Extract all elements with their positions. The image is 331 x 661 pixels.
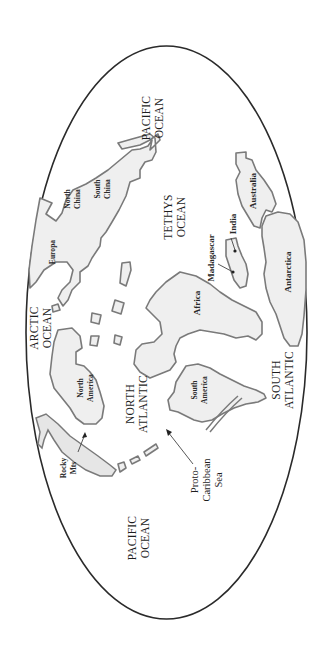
svg-text:PACIFIC: PACIFIC (126, 516, 138, 561)
svg-text:South: South (190, 380, 199, 400)
north-china-label: North China (63, 189, 82, 209)
svg-text:China: China (73, 189, 82, 209)
africa-label: Africa (192, 290, 202, 315)
svg-text:North: North (63, 189, 72, 209)
svg-text:OCEAN: OCEAN (41, 307, 53, 348)
india-marker (233, 249, 236, 252)
island (91, 313, 101, 324)
tethys-ocean-label: TETHYS OCEAN (162, 194, 187, 239)
svg-text:ATLANTIC: ATLANTIC (137, 375, 149, 433)
svg-text:Madagascar: Madagascar (206, 234, 216, 282)
svg-text:OCEAN: OCEAN (153, 97, 165, 138)
svg-text:Mts: Mts (69, 462, 78, 475)
svg-text:ATLANTIC: ATLANTIC (283, 351, 295, 409)
svg-text:India: India (228, 213, 238, 234)
svg-text:NORTH: NORTH (124, 384, 136, 424)
svg-text:Antarctica: Antarctica (283, 251, 293, 292)
antarctica-label: Antarctica (283, 251, 293, 292)
svg-text:North: North (76, 378, 85, 398)
pacific-ocean-top-label: PACIFIC OCEAN (140, 96, 165, 141)
svg-text:Caribbean: Caribbean (201, 458, 212, 502)
south-china-label: South China (93, 179, 112, 199)
island (112, 300, 124, 314)
svg-text:Europa: Europa (48, 240, 57, 265)
europa-label: Europa (48, 240, 57, 265)
india-label: India (228, 213, 238, 234)
arctic-ocean-label: ARCTIC OCEAN (28, 306, 53, 350)
madagascar-marker (231, 270, 234, 273)
island (114, 335, 122, 345)
island (90, 336, 99, 346)
svg-text:Australia: Australia (248, 173, 258, 210)
svg-text:OCEAN: OCEAN (139, 517, 151, 558)
svg-text:Rocky: Rocky (59, 457, 68, 478)
paleogeographic-map: PACIFIC OCEAN TETHYS OCEAN ARCTIC OCEAN … (0, 0, 331, 661)
svg-text:America: America (86, 374, 95, 402)
svg-text:China: China (103, 179, 112, 199)
madagascar-label: Madagascar (206, 234, 216, 282)
svg-text:Africa: Africa (192, 290, 202, 315)
australia-label: Australia (248, 173, 258, 210)
svg-text:TETHYS: TETHYS (162, 194, 174, 239)
svg-text:SOUTH: SOUTH (270, 360, 282, 399)
svg-text:Sea: Sea (213, 472, 224, 488)
pacific-ocean-bottom-label: PACIFIC OCEAN (126, 516, 151, 561)
svg-text:PACIFIC: PACIFIC (140, 96, 152, 141)
svg-text:Proto-: Proto- (189, 466, 200, 493)
svg-text:America: America (200, 376, 209, 404)
island (52, 304, 60, 312)
svg-text:OCEAN: OCEAN (175, 196, 187, 237)
svg-text:ARCTIC: ARCTIC (28, 306, 40, 350)
svg-text:South: South (93, 179, 102, 199)
